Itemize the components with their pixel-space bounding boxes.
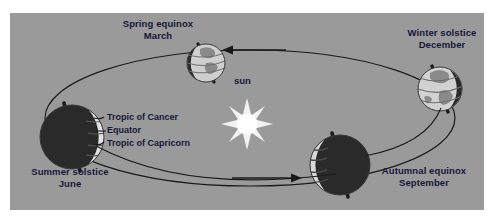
label-winter-solstice: Winter solstice December xyxy=(382,27,484,50)
earth-winter-solstice xyxy=(418,66,463,112)
label-autumnal-equinox: Autumnal equinox September xyxy=(365,165,483,188)
earth-autumnal-equinox xyxy=(307,133,370,197)
autumn-orbit-connector xyxy=(365,108,441,156)
arrow-to-spring-equinox xyxy=(222,46,286,55)
label-tropic-of-cancer: Tropic of Cancer xyxy=(107,112,178,123)
label-equator: Equator xyxy=(107,125,141,136)
summer-orbit-connector xyxy=(96,146,336,180)
seasons-diagram: Spring equinox March Winter solstice Dec… xyxy=(0,0,492,223)
earth-summer-solstice xyxy=(40,103,105,171)
label-spring-equinox: Spring equinox March xyxy=(98,18,218,41)
diagram-panel: Spring equinox March Winter solstice Dec… xyxy=(10,13,484,210)
label-sun: sun xyxy=(234,75,251,86)
sun-graphic xyxy=(221,98,273,150)
label-tropic-of-capricorn: Tropic of Capricorn xyxy=(107,138,190,149)
label-summer-solstice: Summer solstice June xyxy=(12,166,128,189)
earth-spring-equinox xyxy=(187,44,225,82)
